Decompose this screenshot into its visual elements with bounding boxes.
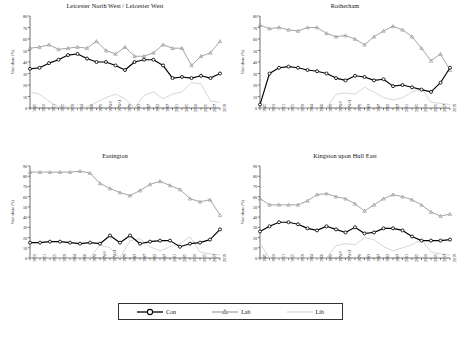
- x-tick-label: 1951: [42, 254, 47, 262]
- x-tick-label: 1966: [82, 254, 87, 262]
- y-tick-label: 30: [18, 71, 27, 76]
- data-point-con: [95, 61, 98, 64]
- data-point-con: [49, 240, 52, 243]
- plot-area: [30, 16, 220, 108]
- x-tick-label: 1974-F: [102, 250, 107, 262]
- data-point-con: [209, 238, 212, 241]
- plot-svg: [30, 16, 222, 110]
- y-axis-label: Vote share (%): [240, 42, 245, 82]
- x-tick-label: 2019: [452, 254, 457, 262]
- data-point-con: [169, 239, 172, 242]
- data-point-con: [76, 52, 79, 55]
- data-point-con: [38, 66, 41, 69]
- x-tick-label: 1955: [52, 254, 57, 262]
- legend-item-lab: Lab: [212, 307, 250, 317]
- data-point-con: [109, 234, 112, 237]
- y-tick-label: 80: [248, 14, 257, 19]
- y-tick-label: 80: [248, 174, 257, 179]
- y-axis-label: Vote share (%): [240, 192, 245, 232]
- x-tick-label: 1992: [385, 104, 390, 112]
- x-tick-label: 1970: [328, 254, 333, 262]
- x-tick-label: 1945: [262, 254, 267, 262]
- y-tick-label: 50: [248, 48, 257, 53]
- y-tick-label: 60: [248, 37, 257, 42]
- data-point-con: [373, 231, 376, 234]
- x-tick-label: 2010: [192, 254, 197, 262]
- data-point-con: [268, 72, 271, 75]
- data-point-con: [382, 227, 385, 230]
- legend-label-lib: Lib: [316, 309, 324, 315]
- x-tick-label: 1979: [357, 254, 362, 262]
- data-point-con: [69, 241, 72, 244]
- data-point-con: [57, 58, 60, 61]
- x-tick-label: 1997: [165, 104, 170, 112]
- data-point-con: [297, 66, 300, 69]
- x-tick-label: 1974-F: [338, 250, 343, 262]
- data-point-con: [200, 74, 203, 77]
- data-point-con: [449, 238, 452, 241]
- y-tick-label: 60: [18, 37, 27, 42]
- y-tick-label: 60: [18, 194, 27, 199]
- plot-svg: [30, 166, 222, 260]
- x-tick-label: 1964: [72, 254, 77, 262]
- x-tick-label: 1974-O: [347, 250, 352, 262]
- series-line-lab: [260, 25, 450, 70]
- data-point-con: [86, 57, 89, 60]
- x-tick-label: 1955: [60, 104, 65, 112]
- chart-legend: Con Lab Lib: [118, 303, 343, 320]
- series-line-con: [260, 67, 450, 105]
- data-point-con: [420, 88, 423, 91]
- x-tick-label: 2019: [222, 254, 227, 262]
- data-point-con: [316, 229, 319, 232]
- y-tick-label: 30: [248, 71, 257, 76]
- y-tick-label: 10: [18, 94, 27, 99]
- x-tick-label: 2001: [174, 104, 179, 112]
- legend-swatch-con: [137, 307, 163, 317]
- x-tick-label: 1966: [319, 104, 324, 112]
- data-point-con: [344, 231, 347, 234]
- x-tick-label: 1950: [41, 104, 46, 112]
- data-point-con: [79, 242, 82, 245]
- data-point-con: [278, 221, 281, 224]
- y-tick-label: 40: [248, 215, 257, 220]
- x-tick-label: 1987: [142, 254, 147, 262]
- data-point-con: [124, 69, 127, 72]
- data-point-con: [39, 241, 42, 244]
- data-point-con: [363, 75, 366, 78]
- x-tick-label: 1970: [92, 254, 97, 262]
- data-point-con: [449, 66, 452, 69]
- x-tick-label: 2019: [222, 104, 227, 112]
- x-tick-label: 2010: [423, 104, 428, 112]
- data-point-con: [199, 241, 202, 244]
- data-point-con: [29, 67, 32, 70]
- x-tick-label: 1992: [152, 254, 157, 262]
- x-tick-label: 1992: [385, 254, 390, 262]
- x-tick-label: 1950: [271, 104, 276, 112]
- y-axis-label: Vote share (%): [10, 192, 15, 232]
- y-tick-label: 20: [18, 235, 27, 240]
- x-tick-label: 1983: [132, 254, 137, 262]
- data-point-con: [344, 79, 347, 82]
- data-point-con: [67, 54, 70, 57]
- x-tick-label: 2005: [184, 104, 189, 112]
- x-tick-label: 1987: [146, 104, 151, 112]
- y-tick-label: 70: [248, 25, 257, 30]
- data-point-con: [268, 225, 271, 228]
- data-point-con: [219, 228, 222, 231]
- x-tick-label: 2001: [404, 104, 409, 112]
- data-point-con: [189, 242, 192, 245]
- plot-area: [260, 16, 450, 108]
- x-tick-label: 2015: [203, 104, 208, 112]
- data-point-con: [392, 227, 395, 230]
- series-line-lab: [30, 171, 220, 215]
- x-tick-label: 1955: [290, 104, 295, 112]
- x-tick-label: 1974-F: [108, 100, 113, 112]
- x-tick-label: 1959: [300, 104, 305, 112]
- y-tick-label: 50: [18, 48, 27, 53]
- chart-panel-leicester: Leicester North West / Leicester West 01…: [0, 2, 230, 154]
- series-line-lib: [30, 83, 220, 108]
- x-tick-label: 2005: [414, 104, 419, 112]
- x-tick-label: 2019: [452, 104, 457, 112]
- x-tick-label: 1964: [309, 104, 314, 112]
- x-tick-label: 2001: [172, 254, 177, 262]
